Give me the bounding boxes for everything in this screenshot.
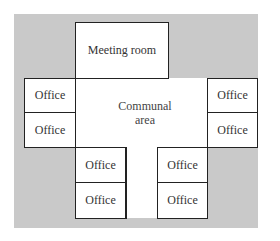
meeting-room-label: Meeting room — [88, 43, 156, 58]
office-right-top: Office — [207, 78, 258, 113]
office-left-top: Office — [24, 78, 76, 113]
office-bottom-right-bottom: Office — [157, 182, 208, 219]
office-bottom-right-top: Office — [157, 147, 208, 183]
office-right-bottom: Office — [207, 112, 258, 148]
communal-area-label: Communal area — [110, 99, 180, 127]
office-left-bottom: Office — [24, 112, 76, 148]
office-bottom-left-top: Office — [75, 147, 126, 183]
office-bottom-left-bottom: Office — [75, 182, 126, 219]
meeting-room: Meeting room — [75, 22, 169, 79]
communal-area-corridor — [125, 147, 158, 218]
